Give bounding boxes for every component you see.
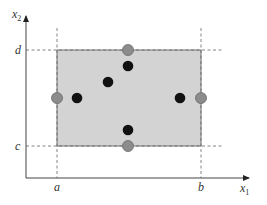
gray-point-right xyxy=(196,93,207,104)
black-point-right xyxy=(175,93,186,104)
x-axis-label: x1 xyxy=(239,181,249,197)
gray-point-top xyxy=(123,45,134,56)
black-point-lower-center xyxy=(123,125,134,136)
black-point-upper-left xyxy=(103,77,114,88)
y-axis-label: x2 xyxy=(11,7,21,23)
rectangle-domain-diagram: x2 x1 d c a b xyxy=(0,0,267,205)
tick-label-b: b xyxy=(198,180,204,194)
gray-point-bottom xyxy=(123,141,134,152)
tick-label-d: d xyxy=(15,43,22,57)
tick-label-a: a xyxy=(54,180,60,194)
black-point-upper-center xyxy=(123,61,134,72)
tick-label-c: c xyxy=(15,139,21,153)
black-point-left xyxy=(72,93,83,104)
gray-point-left xyxy=(52,93,63,104)
